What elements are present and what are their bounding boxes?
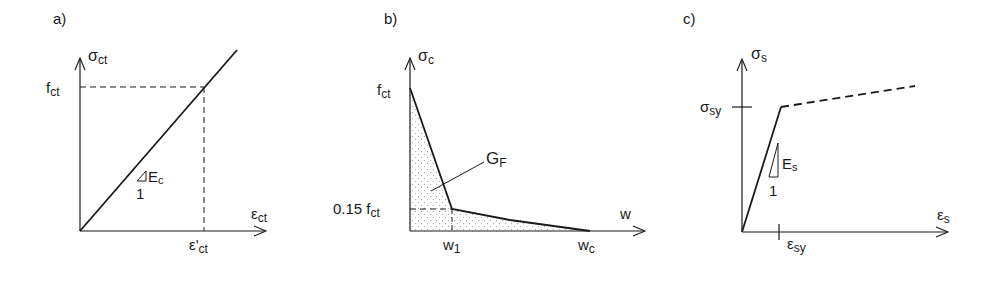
panel-c: c) Es 1 σs σsy εs εsy bbox=[683, 10, 950, 255]
panel-b-label: b) bbox=[384, 10, 397, 27]
panel-b: b) GF σc fct 0.15 fct w w1 wc bbox=[333, 10, 645, 256]
slope-run: 1 bbox=[769, 182, 777, 199]
fct-label: fct bbox=[377, 81, 391, 101]
y-axis-label: σct bbox=[88, 47, 108, 67]
panel-a-label: a) bbox=[53, 10, 66, 27]
slope-run: 1 bbox=[136, 185, 144, 202]
gf-label: GF bbox=[486, 149, 507, 170]
ect-label: ε'ct bbox=[189, 236, 209, 256]
slope-triangle-icon bbox=[137, 171, 146, 181]
wc-label: wc bbox=[577, 236, 595, 256]
slope-label: Ec bbox=[148, 168, 164, 186]
x-axis-label: εs bbox=[937, 206, 950, 226]
elastic-branch bbox=[742, 107, 781, 232]
knee-stress-label: 0.15 fct bbox=[333, 200, 381, 220]
x-axis-label: εct bbox=[251, 205, 268, 225]
panel-c-label: c) bbox=[683, 10, 696, 27]
slope-label: Es bbox=[782, 155, 798, 173]
hardening-branch bbox=[781, 86, 915, 107]
y-axis-label: σc bbox=[418, 47, 434, 67]
stress-strain-line bbox=[80, 50, 237, 231]
w1-label: w1 bbox=[442, 236, 461, 256]
slope-triangle-icon bbox=[769, 143, 778, 177]
yield-strain-label: εsy bbox=[787, 235, 806, 255]
panel-a: a) Ec 1 σct fct εct ε'ct bbox=[46, 10, 268, 256]
yield-stress-label: σsy bbox=[700, 98, 721, 118]
x-axis-label: w bbox=[619, 205, 631, 222]
y-axis-label: σs bbox=[751, 45, 767, 65]
fct-label: fct bbox=[46, 79, 60, 99]
material-laws-diagram: a) Ec 1 σct fct εct ε'ct b) bbox=[0, 0, 999, 281]
